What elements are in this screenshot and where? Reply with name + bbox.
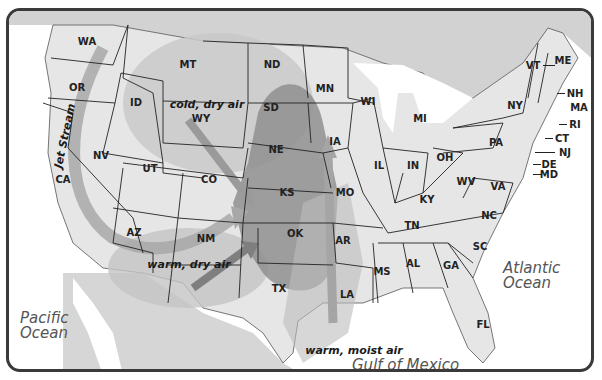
state-label-az: AZ bbox=[127, 227, 142, 238]
state-label-ny: NY bbox=[507, 100, 523, 111]
state-label-ut: UT bbox=[143, 163, 158, 174]
state-label-ms: MS bbox=[373, 266, 390, 277]
state-label-ma: MA bbox=[570, 102, 588, 113]
state-label-nv: NV bbox=[93, 150, 109, 161]
state-label-sd: SD bbox=[263, 102, 279, 113]
state-label-in: IN bbox=[407, 160, 419, 171]
state-label-or: OR bbox=[69, 82, 85, 93]
us-map-graphic bbox=[9, 11, 594, 372]
state-label-ar: AR bbox=[335, 235, 350, 246]
pacific-ocean-label: Pacific Ocean bbox=[20, 311, 69, 341]
state-label-me: ME bbox=[555, 55, 572, 66]
state-label-nc: NC bbox=[481, 210, 497, 221]
state-label-nm: NM bbox=[197, 233, 215, 244]
state-label-wi: WI bbox=[361, 96, 376, 107]
state-label-tx: TX bbox=[272, 283, 287, 294]
state-label-nh: NH bbox=[567, 88, 584, 99]
warm-moist-air-label: warm, moist air bbox=[305, 344, 403, 357]
state-label-ct: CT bbox=[555, 133, 569, 144]
state-label-ia: IA bbox=[329, 136, 340, 147]
state-label-co: CO bbox=[201, 174, 217, 185]
state-label-wy: WY bbox=[192, 113, 210, 124]
state-label-il: IL bbox=[374, 160, 384, 171]
state-label-tn: TN bbox=[404, 220, 419, 231]
state-label-oh: OH bbox=[437, 152, 454, 163]
map-frame: WA OR CA ID NV MT WY UT AZ CO NM ND SD N… bbox=[6, 8, 594, 372]
state-label-la: LA bbox=[340, 289, 354, 300]
ct-leader-line bbox=[545, 138, 553, 139]
state-label-ky: KY bbox=[420, 194, 435, 205]
state-label-ok: OK bbox=[287, 228, 303, 239]
state-label-id: ID bbox=[130, 97, 142, 108]
atlantic-ocean-label: Atlantic Ocean bbox=[503, 261, 560, 291]
pacific-line2: Ocean bbox=[20, 326, 69, 341]
nj-leader-line bbox=[535, 152, 555, 153]
state-label-md: MD bbox=[540, 169, 558, 180]
state-label-sc: SC bbox=[473, 241, 488, 252]
de-leader-line bbox=[533, 164, 541, 165]
vt-leader-line bbox=[543, 65, 555, 66]
atlantic-line2: Ocean bbox=[503, 276, 560, 291]
state-label-wa: WA bbox=[78, 36, 96, 47]
state-label-wv: WV bbox=[457, 176, 476, 187]
warm-dry-air-label: warm, dry air bbox=[147, 258, 230, 271]
state-label-pa: PA bbox=[489, 137, 503, 148]
state-label-ga: GA bbox=[443, 260, 459, 271]
cold-dry-air-label: cold, dry air bbox=[170, 98, 245, 111]
state-label-nj: NJ bbox=[559, 147, 571, 158]
state-label-mi: MI bbox=[413, 113, 427, 124]
state-label-ca: CA bbox=[55, 174, 70, 185]
state-label-nd: ND bbox=[264, 59, 281, 70]
state-label-mt: MT bbox=[180, 59, 197, 70]
state-label-mn: MN bbox=[316, 83, 334, 94]
nh-leader-line bbox=[557, 93, 565, 94]
state-label-fl: FL bbox=[476, 319, 489, 330]
state-label-mo: MO bbox=[336, 187, 354, 198]
gulf-of-mexico-label: Gulf of Mexico bbox=[352, 358, 459, 372]
md-leader-line bbox=[533, 174, 541, 175]
state-label-ks: KS bbox=[280, 187, 295, 198]
state-label-va: VA bbox=[491, 181, 506, 192]
state-label-ri: RI bbox=[569, 119, 580, 130]
state-label-al: AL bbox=[406, 258, 420, 269]
state-label-vt: VT bbox=[526, 60, 541, 71]
state-label-ne: NE bbox=[268, 144, 283, 155]
ri-leader-line bbox=[559, 124, 567, 125]
